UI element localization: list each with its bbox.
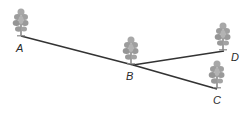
tree-b-icon bbox=[123, 37, 139, 65]
edge-a-b bbox=[21, 36, 133, 65]
label-b: B bbox=[126, 70, 133, 82]
label-d: D bbox=[231, 51, 239, 63]
tree-path-diagram: A B C D bbox=[0, 0, 252, 113]
tree-d-icon bbox=[215, 23, 231, 51]
edge-b-c bbox=[133, 65, 217, 89]
edge-b-d bbox=[133, 51, 224, 65]
tree-a-icon bbox=[13, 9, 29, 37]
label-c: C bbox=[213, 94, 221, 106]
tree-c-icon bbox=[209, 61, 225, 89]
diagram-svg: A B C D bbox=[0, 0, 252, 113]
edges bbox=[21, 36, 224, 89]
label-a: A bbox=[15, 42, 23, 54]
